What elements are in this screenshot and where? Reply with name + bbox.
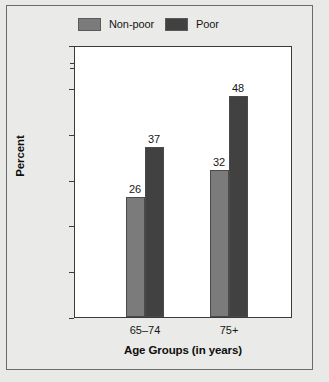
bar-value-non-poor-65-74: 26 (129, 183, 141, 195)
y-tick-mark-0 (69, 318, 74, 319)
bar-value-poor-65-74: 37 (148, 133, 160, 145)
bar-value-poor-75-plus: 48 (232, 82, 244, 94)
bar-value-non-poor-75-plus: 32 (213, 156, 225, 168)
plot-area (74, 46, 292, 318)
bar-non-poor-75-plus (210, 170, 229, 317)
chart-figure: Non-poor Poor 100 50 40 30 20 10 0 Perce… (0, 0, 329, 382)
y-axis-title: Percent (14, 116, 26, 196)
x-axis-title: Age Groups (in years) (74, 344, 292, 356)
bar-non-poor-65-74 (126, 197, 145, 317)
bar-poor-75-plus (229, 96, 248, 317)
x-tick-label-75-plus: 75+ (220, 324, 239, 336)
bars-container (75, 47, 291, 317)
x-tick-label-65-74: 65–74 (130, 324, 161, 336)
bar-poor-65-74 (145, 147, 164, 317)
